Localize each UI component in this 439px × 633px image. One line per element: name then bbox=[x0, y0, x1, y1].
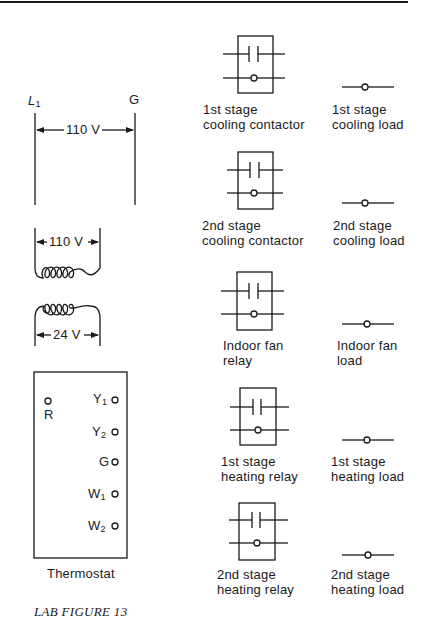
relay-3-label: Indoor fanrelay bbox=[223, 338, 284, 368]
relay-2 bbox=[227, 152, 283, 209]
load-1 bbox=[342, 84, 394, 90]
relay-1 bbox=[223, 36, 285, 93]
primary-voltage: 110 V bbox=[49, 234, 83, 249]
load-3 bbox=[342, 321, 394, 327]
relay-5 bbox=[229, 503, 288, 560]
terminal-y2-label: Y2 bbox=[92, 424, 106, 443]
load-2 bbox=[342, 200, 394, 206]
thermostat-label: Thermostat bbox=[47, 566, 115, 581]
terminal-w1-label: W1 bbox=[88, 486, 106, 505]
terminal-w2-label: W2 bbox=[88, 518, 106, 537]
load-5 bbox=[342, 552, 394, 558]
terminal-g-label: G bbox=[99, 454, 109, 469]
l1-label: L1 bbox=[28, 93, 41, 112]
load-2-label: 2nd stagecooling load bbox=[333, 218, 405, 248]
terminal-y1-label: Y1 bbox=[93, 391, 107, 410]
relay-4 bbox=[230, 388, 289, 445]
load-1-label: 1st stagecooling load bbox=[332, 102, 404, 132]
relay-3 bbox=[221, 272, 284, 330]
relay-1-label: 1st stagecooling contactor bbox=[203, 102, 305, 132]
supply-voltage: 110 V bbox=[66, 122, 100, 137]
g-label: G bbox=[129, 92, 139, 107]
wiring-diagram bbox=[0, 0, 439, 633]
relay-4-label: 1st stageheating relay bbox=[221, 454, 298, 484]
terminal-r-label: R bbox=[44, 407, 54, 422]
load-4-label: 1st stageheating load bbox=[331, 454, 404, 484]
load-4 bbox=[342, 437, 394, 443]
figure-caption: LAB FIGURE 13 bbox=[34, 604, 127, 620]
secondary-voltage: 24 V bbox=[53, 327, 81, 342]
load-5-label: 2nd stageheating load bbox=[331, 567, 404, 597]
relay-2-label: 2nd stagecooling contactor bbox=[202, 218, 304, 248]
relay-5-label: 2nd stageheating relay bbox=[217, 567, 294, 597]
load-3-label: Indoor fanload bbox=[337, 338, 398, 368]
